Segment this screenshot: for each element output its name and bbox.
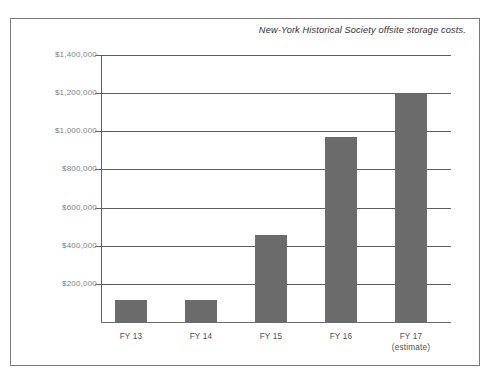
y-axis-tick-label: $800,000	[0, 164, 97, 173]
chart-title: New-York Historical Society offsite stor…	[259, 25, 466, 35]
x-axis-tick-label-main: FY 13	[120, 332, 143, 341]
chart-frame: New-York Historical Society offsite stor…	[10, 18, 480, 366]
bar	[255, 235, 287, 322]
figure-root: New-York Historical Society offsite stor…	[0, 0, 503, 384]
x-axis-tick-label-main: FY 14	[190, 332, 213, 341]
bar	[325, 137, 357, 322]
x-axis-tick-label: FY 17(estimate)	[366, 331, 456, 353]
y-axis-tick-label: $600,000	[0, 203, 97, 212]
y-axis-tick-label: $1,200,000	[0, 88, 97, 97]
bar	[185, 300, 217, 323]
gridline	[101, 55, 451, 56]
y-axis-tick-label: $1,000,000	[0, 126, 97, 135]
y-axis-line	[101, 55, 102, 323]
bar	[395, 93, 427, 322]
x-axis-baseline	[101, 322, 451, 323]
x-axis-tick-label-main: FY 15	[260, 332, 283, 341]
plot-area: $1,400,000$1,200,000$1,000,000$800,000$6…	[101, 55, 451, 322]
x-axis-tick-label-sub: (estimate)	[366, 342, 456, 353]
y-axis-tick-label: $1,400,000	[0, 50, 97, 59]
y-axis-tick-label: $400,000	[0, 241, 97, 250]
x-axis-tick-label-main: FY 16	[330, 332, 353, 341]
x-axis-tick-label-main: FY 17	[400, 332, 423, 341]
bar	[115, 300, 147, 322]
y-axis-tick-label: $200,000	[0, 279, 97, 288]
